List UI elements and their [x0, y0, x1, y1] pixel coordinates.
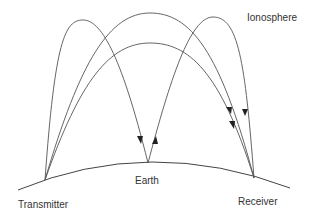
arrow-down-icon — [229, 121, 235, 129]
single-hop-high-path — [45, 13, 254, 180]
arrow-down-icon — [242, 109, 248, 116]
single-hop-low-path — [45, 43, 254, 180]
transmitter-label: Transmitter — [18, 199, 68, 210]
two-hop-first-path — [45, 20, 148, 180]
receiver-label: Receiver — [238, 196, 277, 207]
ionosphere-label: Ionosphere — [247, 12, 297, 23]
two-hop-second-path — [148, 17, 254, 178]
earth-label: Earth — [135, 175, 159, 186]
